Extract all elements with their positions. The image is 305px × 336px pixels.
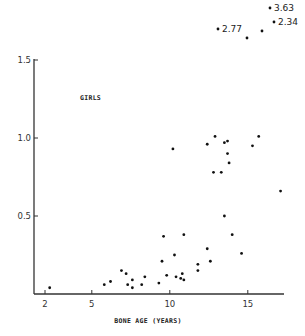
data-points — [48, 135, 282, 289]
data-point — [226, 152, 229, 155]
x-tick-label: 15 — [242, 299, 253, 309]
data-point — [172, 148, 175, 151]
data-point — [231, 233, 234, 236]
data-point — [165, 274, 168, 277]
off-scale-point — [261, 30, 264, 33]
data-point — [196, 263, 199, 266]
off-scale-point — [273, 21, 276, 24]
off-scale-point — [269, 7, 272, 10]
data-point — [126, 283, 129, 286]
data-point — [209, 260, 212, 263]
off-scale-value-label: 3.63 — [274, 3, 294, 13]
data-point — [206, 247, 209, 250]
x-tick-label: 5 — [89, 299, 94, 309]
data-point — [212, 171, 215, 174]
data-point — [179, 277, 182, 280]
data-point — [131, 279, 134, 282]
axes — [34, 59, 284, 294]
data-point — [109, 280, 112, 283]
data-point — [161, 260, 164, 263]
data-point — [257, 135, 260, 138]
y-ticks: 0.51.01.5 — [17, 55, 38, 221]
data-point — [196, 269, 199, 272]
data-point — [125, 272, 128, 275]
y-tick-label: 1.5 — [17, 55, 31, 65]
off-scale-point — [246, 37, 249, 40]
y-tick-label: 0.5 — [17, 211, 31, 221]
data-point — [143, 275, 146, 278]
data-point — [140, 283, 143, 286]
data-point — [120, 269, 123, 272]
data-point — [223, 141, 226, 144]
x-axis-label: BONE AGE (YEARS) — [114, 317, 181, 325]
off-scale-value-label: 2.34 — [278, 17, 298, 27]
data-point — [182, 279, 185, 282]
off-scale-point — [217, 28, 220, 31]
x-tick-label: 10 — [164, 299, 175, 309]
data-point — [181, 272, 184, 275]
data-point — [131, 286, 134, 289]
data-point — [157, 282, 160, 285]
data-point — [173, 254, 176, 257]
data-point — [240, 252, 243, 255]
data-point — [206, 143, 209, 146]
data-point — [175, 275, 178, 278]
data-point — [223, 215, 226, 218]
data-point — [226, 140, 229, 143]
x-tick-label: 2 — [42, 299, 47, 309]
series-label: GIRLS — [80, 94, 101, 102]
data-point — [251, 144, 254, 147]
data-point — [279, 190, 282, 193]
data-point — [182, 233, 185, 236]
data-point — [228, 162, 231, 165]
off-scale-points: 2.773.632.34 — [217, 3, 299, 39]
data-point — [48, 286, 51, 289]
x-ticks: 251015 — [42, 290, 253, 309]
y-tick-label: 1.0 — [17, 133, 31, 143]
data-point — [103, 283, 106, 286]
data-point — [220, 171, 223, 174]
data-point — [214, 135, 217, 138]
scatter-chart: 0.51.01.5 251015 GIRLS BONE AGE (YEARS) … — [0, 0, 305, 336]
off-scale-value-label: 2.77 — [222, 24, 242, 34]
data-point — [162, 235, 165, 238]
